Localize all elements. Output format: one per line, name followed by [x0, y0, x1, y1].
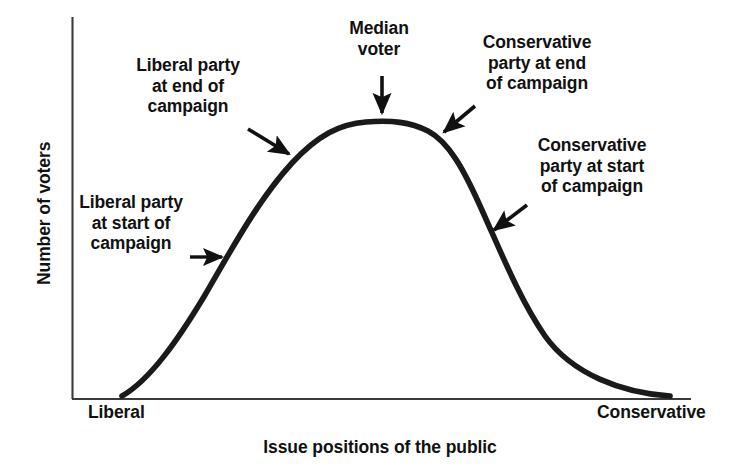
annotation-conservative-party-end: Conservative party at end of campaign: [473, 32, 601, 94]
y-axis-title: Number of voters: [34, 123, 55, 303]
annotation-median-voter: Median voter: [318, 18, 440, 59]
annotation-liberal-party-end: Liberal party at end of campaign: [118, 55, 258, 117]
arrow-conservative-party-end: [444, 106, 475, 132]
arrow-conservative-party-start: [494, 205, 527, 230]
x-tick-label-conservative: Conservative: [597, 402, 706, 423]
x-axis-title: Issue positions of the public: [180, 437, 580, 458]
annotation-conservative-party-start: Conservative party at start of campaign: [528, 135, 656, 197]
x-tick-label-liberal: Liberal: [88, 402, 145, 423]
annotation-liberal-party-start: Liberal party at start of campaign: [72, 192, 190, 254]
voter-distribution-figure: Liberal party at end of campaign Liberal…: [0, 0, 730, 472]
arrow-liberal-party-end: [248, 129, 289, 154]
